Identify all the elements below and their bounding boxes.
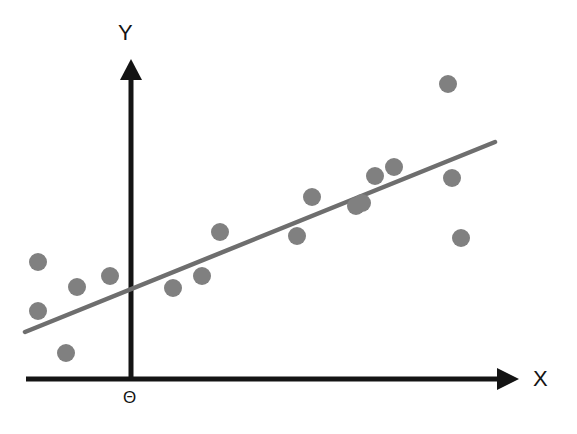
plot-canvas	[0, 0, 577, 434]
scatter-point-group	[29, 75, 470, 362]
regression-line	[25, 142, 495, 332]
y-axis	[120, 59, 142, 379]
scatter-point	[164, 279, 182, 297]
x-axis-arrowhead	[497, 368, 519, 390]
scatter-point	[443, 169, 461, 187]
y-axis-label: Y	[118, 22, 133, 44]
scatter-point	[68, 278, 86, 296]
scatter-point	[288, 227, 306, 245]
scatter-point	[193, 267, 211, 285]
x-axis	[26, 368, 519, 390]
scatter-point	[452, 229, 470, 247]
scatter-plot-figure: Y X Θ	[0, 0, 577, 434]
x-axis-label: X	[533, 368, 548, 390]
y-axis-arrowhead	[120, 59, 142, 80]
scatter-point	[57, 344, 75, 362]
scatter-point	[353, 194, 371, 212]
origin-label: Θ	[123, 389, 136, 406]
scatter-point	[29, 253, 47, 271]
scatter-point	[385, 158, 403, 176]
scatter-point	[366, 167, 384, 185]
scatter-point	[439, 75, 457, 93]
scatter-point	[211, 223, 229, 241]
scatter-point	[29, 302, 47, 320]
scatter-point	[101, 267, 119, 285]
scatter-point	[303, 188, 321, 206]
